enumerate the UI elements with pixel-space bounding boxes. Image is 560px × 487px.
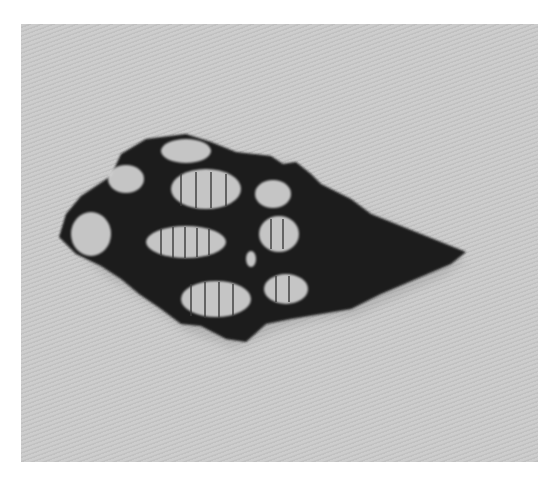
photo-background xyxy=(21,24,538,462)
shell-image xyxy=(21,24,538,462)
